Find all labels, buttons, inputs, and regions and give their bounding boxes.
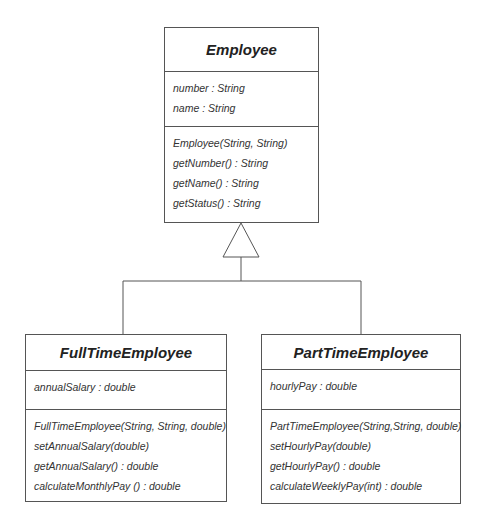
generalization-triangle-icon bbox=[223, 223, 259, 257]
class-fulltime-employee[interactable]: FullTimeEmployee annualSalary : double F… bbox=[25, 334, 227, 502]
attributes-section: hourlyPay : double bbox=[262, 370, 460, 410]
class-name: PartTimeEmployee bbox=[262, 335, 460, 370]
operation: calculateWeeklyPay(int) : double bbox=[270, 476, 460, 496]
class-employee[interactable]: Employee number : String name : String E… bbox=[164, 27, 319, 223]
operations-section: PartTimeEmployee(String,String, double) … bbox=[262, 410, 460, 496]
operation: calculateMonthlyPay () : double bbox=[34, 476, 226, 496]
attribute: hourlyPay : double bbox=[270, 376, 460, 396]
operation: setHourlyPay(double) bbox=[270, 436, 460, 456]
attribute: name : String bbox=[173, 98, 318, 118]
attributes-section: annualSalary : double bbox=[26, 371, 226, 410]
attribute: annualSalary : double bbox=[34, 377, 226, 397]
operation: FullTimeEmployee(String, String, double) bbox=[34, 416, 226, 436]
operations-section: Employee(String, String) getNumber() : S… bbox=[165, 127, 318, 213]
attributes-section: number : String name : String bbox=[165, 72, 318, 127]
attribute: number : String bbox=[173, 78, 318, 98]
operation: getNumber() : String bbox=[173, 153, 318, 173]
operation: getAnnualSalary() : double bbox=[34, 456, 226, 476]
operation: setAnnualSalary(double) bbox=[34, 436, 226, 456]
class-parttime-employee[interactable]: PartTimeEmployee hourlyPay : double Part… bbox=[261, 334, 461, 504]
class-name: FullTimeEmployee bbox=[26, 335, 226, 371]
operation: getHourlyPay() : double bbox=[270, 456, 460, 476]
operation: Employee(String, String) bbox=[173, 133, 318, 153]
operation: getStatus() : String bbox=[173, 193, 318, 213]
operation: PartTimeEmployee(String,String, double) bbox=[270, 416, 460, 436]
operations-section: FullTimeEmployee(String, String, double)… bbox=[26, 410, 226, 496]
operation: getName() : String bbox=[173, 173, 318, 193]
class-name: Employee bbox=[165, 28, 318, 72]
